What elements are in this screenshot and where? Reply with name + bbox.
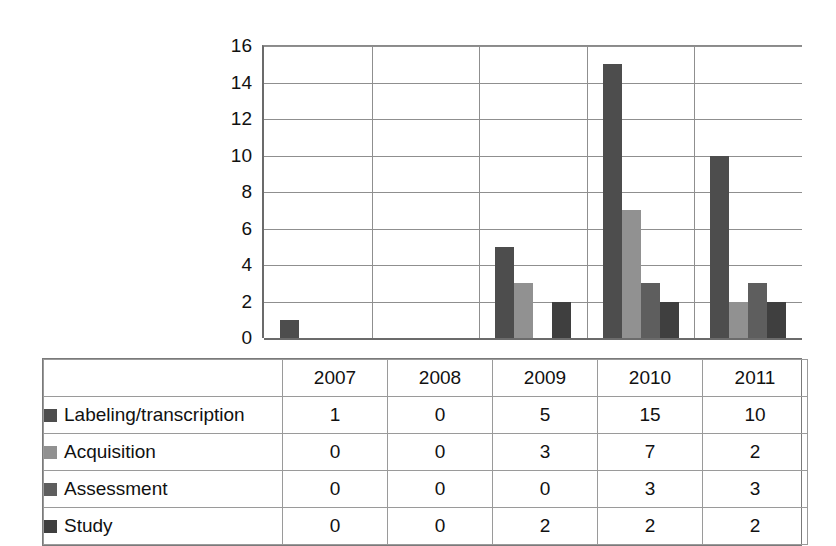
table-row: Assessment00033 bbox=[44, 471, 808, 508]
y-axis-tick-0: 0 bbox=[200, 328, 252, 347]
legend-label: Labeling/transcription bbox=[64, 404, 245, 426]
y-axis-tick-14: 14 bbox=[200, 73, 252, 92]
plot-area bbox=[262, 45, 802, 338]
legend-entry-labeling-transcription: Labeling/transcription bbox=[44, 397, 283, 434]
data-table-grid: 20072008200920102011Labeling/transcripti… bbox=[43, 359, 808, 545]
bar-group-2009 bbox=[479, 46, 587, 338]
y-axis-tick-4: 4 bbox=[200, 255, 252, 274]
table-cell-2011-r3: 2 bbox=[703, 508, 808, 545]
y-axis-tick-labels: 1614121086420 bbox=[200, 45, 252, 337]
legend-entry-acquisition: Acquisition bbox=[44, 434, 283, 471]
table-cell-2008-r3: 0 bbox=[388, 508, 493, 545]
table-cell-2011-r2: 3 bbox=[703, 471, 808, 508]
legend-label: Study bbox=[64, 515, 113, 537]
table-cell-2008-r1: 0 bbox=[388, 434, 493, 471]
bars-layer bbox=[264, 46, 802, 338]
table-header-year-2010: 2010 bbox=[598, 360, 703, 397]
y-axis-tick-10: 10 bbox=[200, 146, 252, 165]
table-header-year-2008: 2008 bbox=[388, 360, 493, 397]
table-corner-blank bbox=[44, 360, 283, 397]
legend-label: Assessment bbox=[64, 478, 167, 500]
legend-label: Acquisition bbox=[64, 441, 156, 463]
bar-group-2007 bbox=[264, 46, 372, 338]
data-table: 20072008200920102011Labeling/transcripti… bbox=[42, 358, 802, 546]
table-cell-2009-r3: 2 bbox=[493, 508, 598, 545]
legend-swatch-icon bbox=[44, 520, 57, 533]
table-row: Labeling/transcription1051510 bbox=[44, 397, 808, 434]
table-cell-2011-r0: 10 bbox=[703, 397, 808, 434]
table-cell-2008-r2: 0 bbox=[388, 471, 493, 508]
bar-2011-labeling-transcription bbox=[710, 156, 729, 339]
table-cell-2011-r1: 2 bbox=[703, 434, 808, 471]
table-cell-2010-r1: 7 bbox=[598, 434, 703, 471]
bar-2009-acquisition bbox=[514, 283, 533, 338]
table-header-year-2011: 2011 bbox=[703, 360, 808, 397]
table-cell-2007-r1: 0 bbox=[283, 434, 388, 471]
bar-2011-acquisition bbox=[729, 302, 748, 339]
table-row: Acquisition00372 bbox=[44, 434, 808, 471]
bar-group-2011 bbox=[694, 46, 802, 338]
table-cell-2010-r0: 15 bbox=[598, 397, 703, 434]
legend-entry-study: Study bbox=[44, 508, 283, 545]
y-axis-tick-16: 16 bbox=[200, 36, 252, 55]
table-cell-2007-r2: 0 bbox=[283, 471, 388, 508]
category-separator bbox=[587, 46, 588, 338]
y-axis-tick-12: 12 bbox=[200, 109, 252, 128]
bar-2010-assessment bbox=[641, 283, 660, 338]
chart-plot-region: 1614121086420 bbox=[0, 0, 836, 358]
legend-swatch-icon bbox=[44, 446, 57, 459]
bar-2011-study bbox=[767, 302, 786, 339]
table-cell-2008-r0: 0 bbox=[388, 397, 493, 434]
table-cell-2010-r2: 3 bbox=[598, 471, 703, 508]
bar-2010-labeling-transcription bbox=[603, 64, 622, 338]
table-header-row: 20072008200920102011 bbox=[44, 360, 808, 397]
table-cell-2007-r0: 1 bbox=[283, 397, 388, 434]
bar-2007-labeling-transcription bbox=[280, 320, 299, 338]
legend-swatch-icon bbox=[44, 409, 57, 422]
axis-baseline bbox=[264, 338, 802, 340]
table-cell-2010-r3: 2 bbox=[598, 508, 703, 545]
bar-2010-acquisition bbox=[622, 210, 641, 338]
table-cell-2007-r3: 0 bbox=[283, 508, 388, 545]
legend-entry-assessment: Assessment bbox=[44, 471, 283, 508]
bar-group-2008 bbox=[372, 46, 480, 338]
y-axis-tick-6: 6 bbox=[200, 219, 252, 238]
category-separator bbox=[372, 46, 373, 338]
bar-2010-study bbox=[660, 302, 679, 339]
y-axis-tick-2: 2 bbox=[200, 292, 252, 311]
table-cell-2009-r0: 5 bbox=[493, 397, 598, 434]
bar-2011-assessment bbox=[748, 283, 767, 338]
table-header-year-2009: 2009 bbox=[493, 360, 598, 397]
legend-swatch-icon bbox=[44, 483, 57, 496]
table-header-year-2007: 2007 bbox=[283, 360, 388, 397]
category-separator bbox=[694, 46, 695, 338]
category-separator bbox=[479, 46, 480, 338]
y-axis-tick-8: 8 bbox=[200, 182, 252, 201]
bar-2009-labeling-transcription bbox=[495, 247, 514, 338]
table-cell-2009-r2: 0 bbox=[493, 471, 598, 508]
bar-2009-study bbox=[552, 302, 571, 339]
bar-group-2010 bbox=[587, 46, 695, 338]
table-row: Study00222 bbox=[44, 508, 808, 545]
table-cell-2009-r1: 3 bbox=[493, 434, 598, 471]
